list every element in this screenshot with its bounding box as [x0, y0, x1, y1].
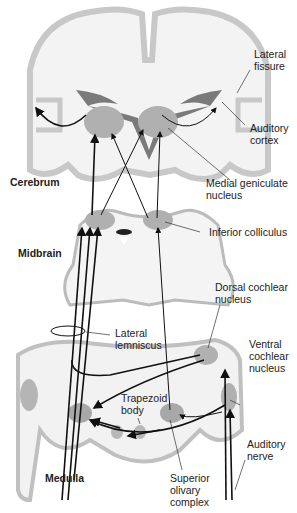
label-superior-olivary: Superior olivary complex	[170, 472, 210, 508]
label-dorsal-cochlear: Dorsal cochlear nucleus	[215, 281, 288, 305]
label-ventral-cochlear: Ventral cochlear nucleus	[249, 338, 289, 374]
medial-geniculate-left	[84, 106, 124, 138]
label-auditory-nerve: Auditory nerve	[247, 438, 286, 462]
label-lateral-fissure: Lateral fissure	[254, 48, 286, 72]
region-label-cerebrum: Cerebrum	[10, 176, 60, 188]
cerebrum-section	[30, 9, 268, 179]
label-inferior-colliculus: Inferior colliculus	[209, 226, 287, 238]
label-lateral-lemniscus: Lateral lemniscus	[115, 327, 162, 351]
region-label-midbrain: Midbrain	[18, 247, 62, 259]
label-medial-geniculate: Medial geniculate nucleus	[206, 177, 288, 201]
label-trapezoid-body: Trapezoid body	[121, 392, 167, 416]
midbrain-section	[65, 210, 234, 305]
region-label-medulla: Medulla	[45, 472, 84, 484]
label-auditory-cortex: Auditory cortex	[250, 122, 289, 146]
